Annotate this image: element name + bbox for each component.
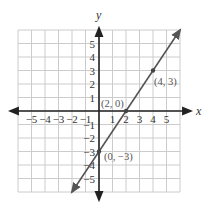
data-point [151, 68, 155, 72]
y-axis-label: y [95, 8, 102, 22]
x-axis-label: x [195, 104, 202, 118]
point-label-4-3: (4, 3) [154, 76, 177, 88]
y-tick-label: −2 [83, 132, 95, 144]
x-tick-label: −3 [53, 113, 65, 125]
x-tick-label: 4 [150, 113, 156, 125]
y-tick-label: 3 [90, 65, 96, 77]
y-tick-label: 5 [90, 38, 96, 50]
x-tick-label: 5 [164, 113, 170, 125]
y-tick-label: 2 [90, 78, 96, 90]
x-tick-label: −4 [39, 113, 51, 125]
x-tick-label: 3 [137, 113, 143, 125]
data-point [124, 109, 128, 113]
coordinate-plane: −5−4−3−2−112345−5−4−3−2−112345 x y (0, −… [0, 0, 213, 207]
point-label-0-neg3: (0, −3) [104, 151, 133, 163]
x-tick-label: −5 [26, 113, 38, 125]
y-tick-label: −1 [83, 119, 95, 131]
point-label-2-0: (2, 0) [101, 98, 124, 110]
data-point [97, 149, 101, 153]
y-tick-label: −5 [83, 173, 95, 185]
x-tick-label: −2 [66, 113, 78, 125]
x-tick-label: 1 [110, 113, 116, 125]
y-tick-label: −3 [83, 146, 95, 158]
y-tick-label: 1 [90, 92, 96, 104]
y-tick-label: 4 [90, 51, 96, 63]
